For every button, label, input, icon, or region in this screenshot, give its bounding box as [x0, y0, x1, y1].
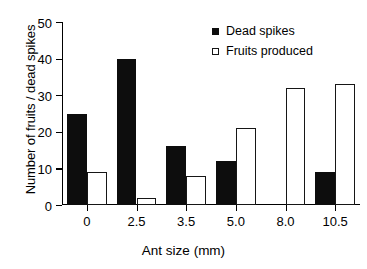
y-tick-label: 20 — [38, 125, 52, 140]
bar — [335, 84, 355, 205]
chart-legend: Dead spikes Fruits produced — [212, 21, 313, 61]
bar — [216, 161, 236, 205]
y-tick: 0 — [56, 205, 62, 206]
bar — [186, 176, 206, 205]
bar — [87, 172, 107, 205]
filled-square-icon — [212, 28, 219, 35]
x-tick: 5.0 — [236, 205, 237, 211]
open-square-icon — [212, 48, 219, 55]
bar — [67, 114, 87, 206]
plot-area: 01020304050 02.53.55.08.010.5 — [62, 22, 360, 205]
x-tick: 8.0 — [286, 205, 287, 211]
x-tick: 3.5 — [186, 205, 187, 211]
y-tick-label: 10 — [38, 162, 52, 177]
x-tick-label: 0 — [83, 214, 90, 229]
x-tick: 10.5 — [335, 205, 336, 211]
legend-item-fruits-produced: Fruits produced — [212, 41, 313, 61]
x-tick: 2.5 — [137, 205, 138, 211]
bar — [137, 198, 157, 205]
x-tick-label: 3.5 — [177, 214, 195, 229]
y-tick: 20 — [56, 132, 62, 133]
y-tick: 30 — [56, 95, 62, 96]
x-tick-label: 8.0 — [276, 214, 294, 229]
bar — [166, 146, 186, 205]
y-tick-label: 50 — [38, 15, 52, 30]
bar-chart-figure: Number of fruits / dead spikes 010203040… — [0, 0, 367, 269]
y-tick: 40 — [56, 59, 62, 60]
legend-item-dead-spikes: Dead spikes — [212, 21, 313, 41]
y-axis-title: Number of fruits / dead spikes — [23, 10, 38, 210]
x-axis-title: Ant size (mm) — [0, 243, 367, 258]
x-tick-label: 5.0 — [227, 214, 245, 229]
y-tick-label: 30 — [38, 88, 52, 103]
x-tick-label: 10.5 — [323, 214, 348, 229]
y-tick-label: 0 — [45, 198, 52, 213]
legend-label: Fruits produced — [226, 44, 313, 58]
bar — [315, 172, 335, 205]
y-tick-label: 40 — [38, 52, 52, 67]
y-tick: 10 — [56, 168, 62, 169]
x-tick: 0 — [87, 205, 88, 211]
legend-label: Dead spikes — [226, 24, 295, 38]
x-tick-label: 2.5 — [127, 214, 145, 229]
y-axis-line — [62, 22, 63, 205]
y-tick: 50 — [56, 22, 62, 23]
bar — [117, 59, 137, 205]
bar — [236, 128, 256, 205]
bar — [286, 88, 306, 205]
